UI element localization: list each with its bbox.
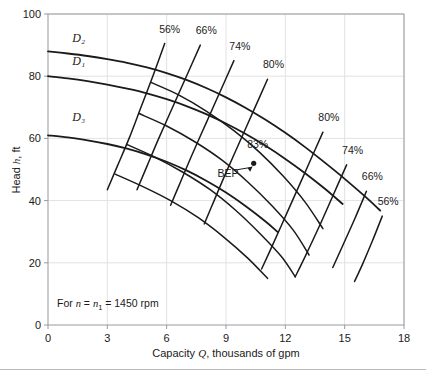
y-axis-title-prefix: Head: [10, 164, 22, 193]
y-tick-label: 80: [29, 70, 41, 82]
efficiency-label: 56%: [159, 23, 180, 35]
x-tick-label: 9: [223, 332, 229, 344]
y-tick-label: 20: [29, 257, 41, 269]
chart-canvas: BEP83% 56%66%74%80%80%74%66%56% D₂D₁D₃ 0…: [0, 0, 426, 371]
diameter-label-D1: D₁: [71, 54, 85, 68]
x-tick-label: 15: [339, 332, 351, 344]
bep-efficiency-value: 83%: [247, 138, 268, 150]
efficiency-label: 66%: [362, 170, 383, 182]
efficiency-label: 56%: [378, 195, 399, 207]
efficiency-label: 80%: [318, 111, 339, 123]
note-equals-1: =: [81, 297, 93, 309]
x-tick-label: 6: [164, 332, 170, 344]
bep-label: BEP: [217, 167, 238, 179]
x-tick-label: 3: [104, 332, 110, 344]
efficiency-label: 66%: [196, 24, 217, 36]
efficiency-label: 74%: [229, 40, 250, 52]
bep-point-marker: [251, 161, 256, 166]
x-axis-title: Capacity Q, thousands of gpm: [152, 347, 299, 359]
y-tick-label: 40: [29, 195, 41, 207]
efficiency-label: 80%: [263, 58, 284, 70]
x-tick-label: 12: [279, 332, 291, 344]
x-axis-title-symbol: Q: [198, 347, 206, 359]
pump-performance-chart: BEP83% 56%66%74%80%80%74%66%56% D₂D₁D₃ 0…: [0, 0, 426, 371]
diameter-label-D2: D₂: [71, 31, 85, 45]
y-tick-label: 0: [35, 319, 41, 331]
y-tick-label: 60: [29, 132, 41, 144]
x-axis-title-suffix: , thousands of gpm: [206, 347, 300, 359]
x-axis-title-prefix: Capacity: [152, 347, 198, 359]
y-tick-label: 100: [23, 8, 41, 20]
x-tick-label: 0: [45, 332, 51, 344]
x-tick-label: 18: [398, 332, 410, 344]
note-equals-2: = 1450 rpm: [102, 297, 159, 309]
efficiency-label: 74%: [342, 144, 363, 156]
note-prefix: For: [57, 297, 76, 309]
y-axis-title-suffix: , ft: [10, 146, 22, 158]
diameter-label-D3: D₃: [71, 110, 85, 124]
y-axis-title: Head h, ft: [10, 146, 22, 193]
